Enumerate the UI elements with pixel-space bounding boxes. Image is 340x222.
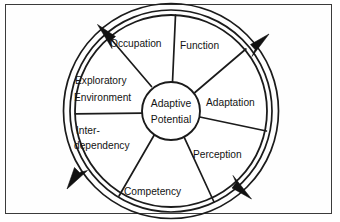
ring-arrow-lower-right-icon bbox=[232, 176, 252, 200]
wheel-svg: Adaptive Potential Function Adaptation P… bbox=[0, 0, 340, 222]
hub-circle bbox=[142, 82, 200, 140]
sector-label-competency: Competency bbox=[124, 186, 182, 197]
adaptive-potential-wheel: Adaptive Potential Function Adaptation P… bbox=[0, 0, 340, 222]
hub-label-line2: Potential bbox=[151, 114, 191, 125]
sector-label-adaptation: Adaptation bbox=[206, 97, 255, 108]
sector-label-function: Function bbox=[180, 40, 219, 51]
ring-arrow-upper-right-icon bbox=[251, 34, 270, 57]
sector-label-interdependency-line1: Inter- bbox=[76, 125, 100, 136]
sector-label-occupation: Occupation bbox=[110, 38, 162, 49]
hub-label-line1: Adaptive bbox=[151, 98, 192, 109]
spoke-interdependency-exploratory bbox=[75, 113, 142, 114]
sector-label-perception: Perception bbox=[193, 149, 242, 160]
sector-label-exploratory-line2: Environment bbox=[74, 92, 131, 103]
sector-label-interdependency-line2: dependency bbox=[74, 140, 130, 151]
ring-arrow-lower-left-icon bbox=[67, 168, 88, 190]
sector-label-exploratory-line1: Exploratory bbox=[75, 75, 127, 86]
